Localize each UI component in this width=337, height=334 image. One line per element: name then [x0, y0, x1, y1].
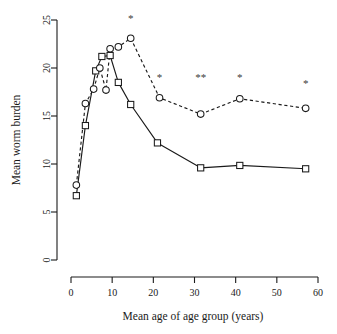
y-tick-label: 20 [41, 63, 52, 73]
x-axis: 0102030405060 [69, 277, 324, 298]
y-tick-label: 15 [41, 111, 52, 121]
series-markers-group [73, 35, 309, 199]
data-point-square [128, 101, 134, 107]
x-axis-title: Mean age of age group (years) [123, 310, 264, 323]
data-point-circle [107, 46, 114, 53]
y-tick-label: 10 [41, 159, 52, 169]
data-point-square [154, 140, 160, 146]
data-point-circle [302, 105, 309, 112]
data-point-square [82, 123, 88, 129]
data-point-circle [197, 111, 204, 118]
y-tick-label: 25 [41, 15, 52, 25]
x-tick-label: 50 [272, 287, 282, 298]
significance-annotations-group: ****** [128, 12, 308, 89]
significance-asterisk: * [237, 71, 243, 83]
data-point-circle [73, 182, 80, 189]
y-axis: 0510152025 [41, 15, 58, 263]
data-point-square [198, 165, 204, 171]
data-point-circle [156, 94, 163, 101]
data-point-square [73, 193, 79, 199]
x-tick-label: 20 [148, 287, 158, 298]
x-tick-label: 30 [190, 287, 200, 298]
data-point-square [99, 53, 105, 59]
data-point-square [115, 79, 121, 85]
significance-asterisk: ** [195, 71, 206, 83]
x-tick-label: 60 [313, 287, 323, 298]
x-axis-ticks: 0102030405060 [69, 277, 324, 298]
data-point-circle [115, 44, 122, 51]
series-line-dashed-circles [76, 38, 305, 185]
data-point-circle [97, 65, 104, 72]
y-tick-label: 0 [41, 258, 52, 263]
y-tick-label: 5 [41, 210, 52, 215]
significance-asterisk: * [303, 77, 309, 89]
data-point-square [237, 162, 243, 168]
data-point-circle [90, 86, 97, 93]
y-axis-title: Mean worm burden [10, 94, 22, 185]
x-tick-label: 40 [231, 287, 241, 298]
data-point-square [107, 52, 113, 58]
chart-container: 0510152025 0102030405060 ****** Mean age… [0, 0, 337, 334]
x-tick-label: 10 [107, 287, 117, 298]
x-tick-label: 0 [69, 287, 74, 298]
worm-burden-line-chart: 0510152025 0102030405060 ****** Mean age… [0, 0, 337, 334]
series-line-solid-squares [76, 56, 305, 196]
significance-asterisk: * [128, 12, 134, 24]
data-point-circle [103, 87, 110, 94]
series-lines-group [76, 38, 305, 195]
data-point-circle [127, 35, 134, 42]
data-point-circle [236, 95, 243, 102]
data-point-square [303, 166, 309, 172]
y-axis-ticks: 0510152025 [41, 15, 58, 263]
data-point-circle [82, 100, 89, 107]
significance-asterisk: * [157, 71, 163, 83]
